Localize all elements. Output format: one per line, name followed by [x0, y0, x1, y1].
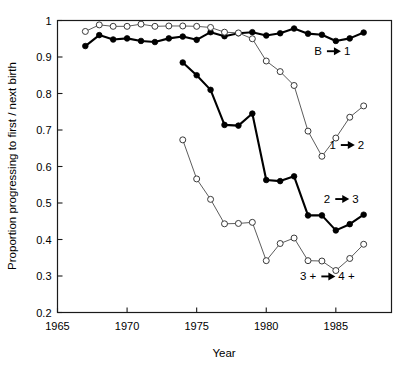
- data-point: [361, 103, 367, 109]
- proportion-progressing-line-chart: 0.20.30.40.50.60.70.80.91 19651970197519…: [0, 0, 407, 369]
- data-point: [208, 87, 214, 93]
- data-point: [194, 23, 200, 29]
- data-point: [361, 212, 367, 218]
- x-tick-label: 1965: [45, 320, 69, 332]
- data-point: [235, 220, 241, 226]
- data-point: [166, 23, 172, 29]
- annotation-target-label: 3: [352, 193, 358, 205]
- data-point: [222, 122, 228, 128]
- data-point: [249, 219, 255, 225]
- x-tick-label: 1980: [254, 320, 278, 332]
- data-point: [305, 31, 311, 37]
- data-point: [124, 36, 130, 42]
- data-point: [305, 128, 311, 134]
- data-point: [138, 38, 144, 44]
- data-point: [82, 28, 88, 34]
- data-point: [291, 82, 297, 88]
- y-tick-label: 0.4: [36, 234, 51, 246]
- data-point: [110, 23, 116, 29]
- y-tick-label: 1: [45, 15, 51, 27]
- x-tick-label: 1970: [115, 320, 139, 332]
- data-point: [152, 39, 158, 45]
- annotation-target-label: 1: [344, 45, 350, 57]
- annotation-target-label: 4 +: [338, 270, 355, 282]
- data-point: [361, 241, 367, 247]
- x-tick-label: 1975: [184, 320, 208, 332]
- data-point: [180, 60, 186, 66]
- data-point: [277, 178, 283, 184]
- data-point: [291, 235, 297, 241]
- data-point: [277, 30, 283, 36]
- data-point: [222, 29, 228, 35]
- data-point: [208, 24, 214, 30]
- y-tick-label: 0.9: [36, 51, 51, 63]
- data-point: [347, 114, 353, 120]
- data-point: [319, 213, 325, 219]
- x-axis-title: Year: [212, 347, 235, 359]
- data-point: [96, 22, 102, 28]
- data-point: [277, 241, 283, 247]
- annotation-source-label: 3 +: [300, 270, 317, 282]
- data-point: [194, 176, 200, 182]
- data-point: [305, 213, 311, 219]
- data-point: [319, 32, 325, 38]
- data-point: [361, 30, 367, 36]
- data-point: [347, 255, 353, 261]
- data-point: [263, 177, 269, 183]
- data-point: [319, 153, 325, 159]
- data-point: [83, 43, 89, 49]
- data-point: [291, 26, 297, 32]
- data-point: [291, 174, 297, 180]
- chart-figure: 0.20.30.40.50.60.70.80.91 19651970197519…: [0, 0, 407, 369]
- data-point: [152, 23, 158, 29]
- data-point: [208, 196, 214, 202]
- data-point: [263, 58, 269, 64]
- data-point: [96, 32, 102, 38]
- annotation-source-label: B: [314, 45, 322, 57]
- y-axis-title: Proportion progressing to first / next b…: [6, 62, 18, 270]
- data-point: [235, 30, 241, 36]
- data-point: [333, 228, 339, 234]
- data-point: [180, 34, 186, 40]
- data-point: [138, 21, 144, 27]
- data-point: [166, 36, 172, 42]
- y-tick-label: 0.2: [36, 307, 51, 319]
- data-point: [249, 36, 255, 42]
- data-point: [124, 23, 130, 29]
- data-point: [333, 38, 339, 44]
- data-point: [250, 29, 256, 35]
- y-tick-label: 0.8: [36, 88, 51, 100]
- data-point: [305, 258, 311, 264]
- annotation-source-label: 2: [324, 193, 330, 205]
- data-point: [180, 137, 186, 143]
- data-point: [194, 72, 200, 78]
- data-point: [347, 221, 353, 227]
- data-point: [263, 258, 269, 264]
- data-point: [347, 36, 353, 42]
- data-point: [263, 33, 269, 39]
- data-point: [222, 221, 228, 227]
- y-tick-label: 0.7: [36, 124, 51, 136]
- data-point: [236, 123, 242, 129]
- y-tick-label: 0.5: [36, 197, 51, 209]
- data-point: [250, 111, 256, 117]
- y-tick-label: 0.3: [36, 270, 51, 282]
- data-point: [277, 69, 283, 75]
- y-tick-label: 0.6: [36, 161, 51, 173]
- x-tick-label: 1985: [324, 320, 348, 332]
- data-point: [110, 37, 116, 43]
- annotation-source-label: 1: [329, 139, 335, 151]
- data-point: [194, 37, 200, 43]
- annotation-target-label: 2: [358, 139, 364, 151]
- data-point: [180, 23, 186, 29]
- data-point: [319, 258, 325, 264]
